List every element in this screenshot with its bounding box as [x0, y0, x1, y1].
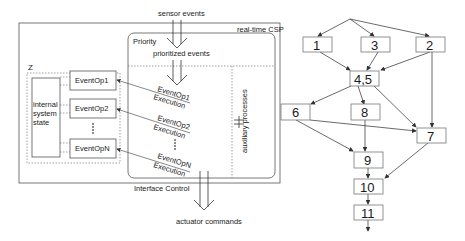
- interface-control-label-visible: Interface Control: [134, 184, 190, 193]
- state-label-line-3: state: [33, 118, 49, 127]
- node-11: 11: [354, 205, 383, 221]
- node-1-label: 1: [313, 38, 320, 53]
- node-6-label: 6: [292, 105, 299, 120]
- sensor-events-label: sensor events: [158, 9, 205, 18]
- node-6: 6: [281, 104, 310, 120]
- node-3: 3: [361, 37, 390, 53]
- node-2-label: 2: [426, 38, 433, 53]
- node-9-label: 9: [364, 153, 371, 168]
- priority-label: Priority: [133, 37, 157, 46]
- eventop2-label: EventOp2: [75, 104, 108, 113]
- node-11-label: 11: [361, 206, 375, 221]
- state-connectors: [60, 77, 70, 152]
- ellipsis-dots-mid: [174, 139, 176, 150]
- csp-architecture-diagram: sensor events real-time CSP Priority pri…: [19, 9, 284, 226]
- dependency-graph: 1 3 2 4,5 6 8 7 9: [281, 19, 446, 231]
- actuator-output-arrow: [194, 171, 214, 210]
- node-10-label: 10: [360, 180, 374, 195]
- node-9: 9: [354, 152, 383, 168]
- prioritized-arrow: [167, 60, 187, 85]
- state-label-line-1: internal: [33, 100, 58, 109]
- diagram-canvas: sensor events real-time CSP Priority pri…: [0, 0, 465, 241]
- z-schema-label: Z: [28, 63, 33, 72]
- node-4-5: 4,5: [350, 71, 379, 87]
- node-3-label: 3: [371, 38, 378, 53]
- node-8-label: 8: [361, 105, 368, 120]
- eventop1-label: EventOp1: [75, 76, 108, 85]
- node-7: 7: [417, 128, 446, 144]
- node-1: 1: [303, 37, 332, 53]
- state-label-line-2: system: [33, 109, 57, 118]
- node-10: 10: [354, 179, 383, 195]
- actuator-commands-label: actuator commands: [176, 217, 242, 226]
- prioritized-events-label: prioritized events: [153, 49, 210, 58]
- auxiliary-processes-label: auxiliary processes: [240, 89, 249, 153]
- node-7-label: 7: [427, 129, 434, 144]
- sensor-input-arrow: [167, 20, 187, 48]
- node-2: 2: [416, 37, 445, 53]
- eventopn-label: EventOpN: [75, 144, 110, 153]
- ellipsis-dots-left: [92, 123, 94, 134]
- node-8: 8: [351, 104, 380, 120]
- node-4-5-label: 4,5: [354, 72, 372, 87]
